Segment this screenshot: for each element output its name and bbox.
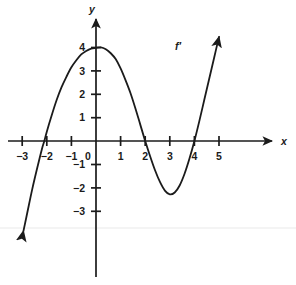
origin-label-0: 0 — [85, 150, 91, 162]
y-tick-label-3: 3 — [79, 65, 85, 77]
coordinate-plane-svg: −3 −2 −1 0 1 2 3 4 5 x 4 3 2 — [0, 0, 296, 285]
x-tick-label-2: 2 — [142, 150, 148, 162]
curve-label: f′ — [175, 40, 181, 52]
function-curve — [23, 37, 219, 231]
y-tick-label--1: −1 — [73, 158, 85, 170]
x-tick-label-1: 1 — [118, 150, 124, 162]
y-tick-label-2: 2 — [79, 88, 85, 100]
x-tick-label--2: −2 — [41, 150, 53, 162]
function-curve-group — [23, 37, 219, 231]
y-axis-title: y — [88, 3, 96, 15]
y-tick-label--3: −3 — [73, 205, 85, 217]
y-tick-label-1: 1 — [79, 111, 85, 123]
x-tick-label-5: 5 — [216, 150, 222, 162]
x-axis-title: x — [280, 135, 288, 147]
y-axis: 4 3 2 1 −1 −2 −3 y — [73, 3, 101, 277]
y-tick-label--2: −2 — [73, 182, 85, 194]
x-tick-label-3: 3 — [167, 150, 173, 162]
x-tick-label--3: −3 — [16, 150, 28, 162]
graph-figure: −3 −2 −1 0 1 2 3 4 5 x 4 3 2 — [0, 0, 296, 285]
